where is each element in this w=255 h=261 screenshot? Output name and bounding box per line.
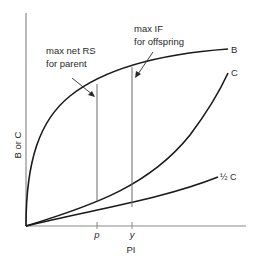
diagram-canvas: max net RS for parent max IF for offspri…	[0, 0, 255, 261]
curve-label-c: C	[231, 67, 238, 78]
tick-label-y: y	[129, 229, 136, 240]
tick-label-p: p	[93, 229, 99, 240]
curve-b	[26, 49, 228, 226]
arrowhead-offspring-icon	[135, 71, 141, 78]
annotation-offspring-line2: for offspring	[134, 36, 184, 47]
annotation-offspring-line1: max IF	[134, 23, 163, 34]
y-axis-label: B or C	[12, 131, 23, 158]
curve-label-half-c: ½ C	[220, 172, 237, 182]
x-axis-label: PI	[127, 244, 136, 255]
curve-half-c	[26, 177, 218, 226]
annotation-parent-line1: max net RS	[46, 45, 96, 56]
annotation-parent-line2: for parent	[46, 58, 87, 69]
curve-label-b: B	[231, 44, 237, 55]
